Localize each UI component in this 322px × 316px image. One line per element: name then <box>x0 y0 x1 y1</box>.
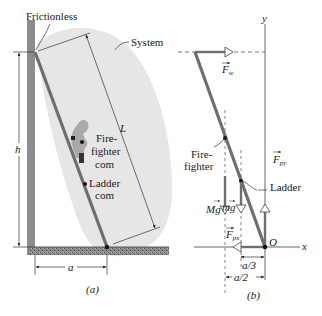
weight-ladder-label: mg <box>222 201 236 213</box>
distance-label: a <box>68 261 74 273</box>
ladder-com-label-2: com <box>95 189 114 201</box>
length-label: L <box>119 122 126 134</box>
firefighter-com-label-2: fighter <box>91 145 121 157</box>
frictionless-label: Frictionless <box>26 10 77 22</box>
ladder-com-label: Ladder <box>89 177 120 189</box>
dim-a2-label: a/2 <box>234 271 249 283</box>
origin-label: O <box>269 236 277 248</box>
force-px-label: Fpx <box>225 228 240 242</box>
panel-a: L h a Frictionless System Fire- fighter … <box>13 10 172 296</box>
firefighter-com-dot <box>80 140 84 144</box>
system-label: System <box>131 36 164 48</box>
ladder-diagram: L h a Frictionless System Fire- fighter … <box>0 0 322 316</box>
firefighter-fbd-label: Fire- <box>191 148 213 160</box>
ladder-fbd-label: Ladder <box>270 181 301 193</box>
floor <box>27 247 169 255</box>
dim-a3-label: a/3 <box>242 259 257 271</box>
y-axis-label: y <box>261 12 267 24</box>
caption-a: (a) <box>86 283 99 296</box>
caption-b: (b) <box>247 289 260 302</box>
weight-firefighter-label: Mg <box>205 203 221 215</box>
firefighter-com-label-3: com <box>95 158 114 170</box>
firefighter-com-label: Fire- <box>96 132 118 144</box>
force-py-label: Fpy <box>272 153 287 167</box>
origin-point <box>263 245 268 250</box>
force-wall-label: Fw <box>221 63 234 77</box>
x-axis-label: x <box>301 240 307 252</box>
panel-b: y x Fw Fire- fighter Mg Ladder <box>178 12 307 302</box>
ladder-com-dot <box>83 182 87 186</box>
wall <box>27 20 35 248</box>
firefighter-fbd-label-2: fighter <box>184 160 214 172</box>
height-label: h <box>15 143 21 155</box>
